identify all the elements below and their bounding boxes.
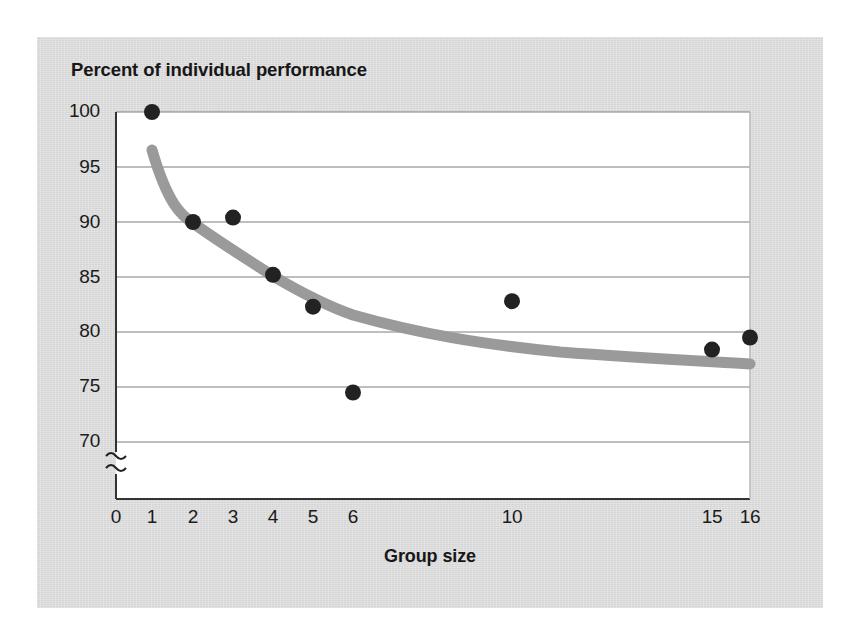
data-point (345, 385, 361, 401)
data-point (144, 104, 160, 120)
x-tick-label: 4 (253, 506, 293, 528)
x-tick-label: 3 (213, 506, 253, 528)
data-point (742, 330, 758, 346)
x-tick-label: 2 (173, 506, 213, 528)
y-tick-label: 90 (54, 211, 100, 233)
x-tick-label: 1 (132, 506, 172, 528)
x-tick-label: 15 (692, 506, 732, 528)
data-point (305, 299, 321, 315)
gridlines-group (116, 112, 750, 442)
x-tick-label: 0 (96, 506, 136, 528)
figure-root: Percent of individual performance 100 95… (0, 0, 857, 644)
x-tick-label: 16 (730, 506, 770, 528)
y-tick-label: 95 (54, 156, 100, 178)
x-tick-label: 5 (293, 506, 333, 528)
y-tick-label: 80 (54, 320, 100, 342)
data-point (225, 210, 241, 226)
data-point (265, 267, 281, 283)
x-tick-label: 10 (492, 506, 532, 528)
data-point (704, 342, 720, 358)
y-tick-label: 85 (54, 266, 100, 288)
y-tick-label: 100 (54, 100, 100, 122)
data-point (504, 293, 520, 309)
x-axis-title: Group size (330, 546, 530, 567)
y-tick-label: 70 (54, 430, 100, 452)
y-axis-break-icon (106, 453, 126, 471)
x-tick-label: 6 (333, 506, 373, 528)
y-tick-label: 75 (54, 375, 100, 397)
data-point (185, 214, 201, 230)
